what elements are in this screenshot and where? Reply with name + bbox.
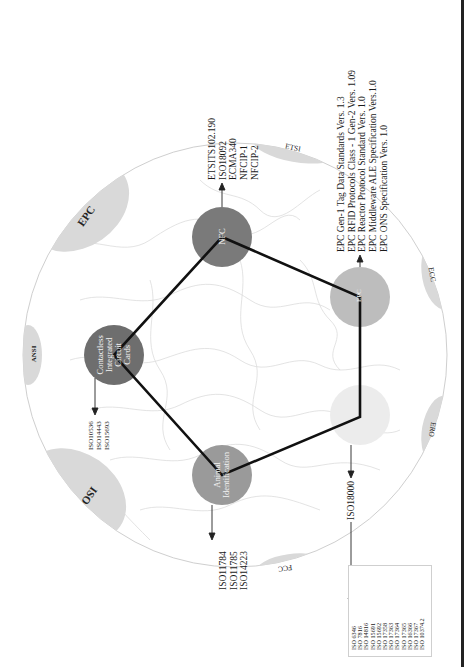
- node-label-contactless: Contactless Integrated Circuit Cards: [96, 325, 132, 385]
- rfid-standards-diagram: EPC ANSI ISO FCC ERO ECC ETSI NFC EPC An…: [0, 0, 471, 667]
- animal-standards-list: ISO11784 ISO11785 ISO14223: [218, 551, 250, 590]
- epc-standards-list: EPC Gen-1 Tag Data Standards Vers. 1.3 E…: [336, 70, 389, 252]
- page-edge-rule: [461, 0, 464, 667]
- nfc-standards-list: ETSITS102.190 ISO18092 ECMA340 NFCIP-1 N…: [207, 118, 260, 180]
- iso-standards-list: ISO 6346 ISO 7816 ISO 14816 ISO 15691 IS…: [351, 618, 425, 650]
- contactless-standards-list: ISO10536 ISO14443 ISO15693: [88, 421, 111, 450]
- node-label-animal: Animal Identification: [213, 445, 231, 505]
- node-label-nfc: NFC: [218, 221, 227, 251]
- node-label-epc: EPC: [356, 281, 363, 311]
- iso18000-label: ISO18000: [346, 479, 357, 522]
- org-label-ansi: ANSI: [30, 346, 38, 363]
